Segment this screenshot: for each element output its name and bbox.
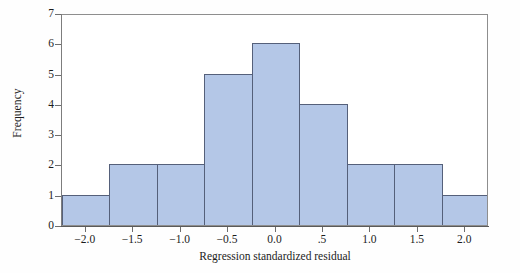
y-axis-tick-mark xyxy=(55,135,61,136)
x-axis-tick-mark xyxy=(369,227,370,232)
y-axis-tick-mark xyxy=(55,44,61,45)
y-axis-tick-label: 0 xyxy=(30,220,54,232)
y-axis-tick-label: 7 xyxy=(30,8,54,20)
y-axis-tick-label: 6 xyxy=(30,39,54,51)
x-axis-tick-mark xyxy=(132,227,133,232)
histogram-bar xyxy=(62,195,110,226)
x-axis-tick-mark xyxy=(275,227,276,232)
x-axis-tick-label: −2.0 xyxy=(74,234,95,246)
y-axis-title-text: Frequency xyxy=(11,88,23,137)
y-axis-tick-mark xyxy=(55,75,61,76)
histogram-bars xyxy=(62,15,487,225)
y-axis-title: Frequency xyxy=(6,0,28,226)
y-axis-tick-mark xyxy=(55,196,61,197)
histogram-bar xyxy=(252,43,300,226)
x-axis-tick-label: −0.5 xyxy=(217,234,238,246)
y-axis-tick-mark xyxy=(55,105,61,106)
y-axis-tick-labels: 01234567 xyxy=(30,0,54,240)
x-axis-tick-mark xyxy=(180,227,181,232)
y-axis-tick-mark xyxy=(55,14,61,15)
x-axis-tick-label: .5 xyxy=(318,234,327,246)
histogram-bar xyxy=(204,74,252,226)
x-axis-tick-mark xyxy=(227,227,228,232)
y-axis-tick-label: 2 xyxy=(30,160,54,172)
y-axis-tick-label: 5 xyxy=(30,69,54,81)
y-axis-tick-label: 3 xyxy=(30,129,54,141)
x-axis-tick-label: 1.0 xyxy=(362,234,376,246)
x-axis-tick-mark xyxy=(417,227,418,232)
x-axis-tick-label: −1.0 xyxy=(169,234,190,246)
y-axis-tick-label: 1 xyxy=(30,190,54,202)
y-axis-tick-mark xyxy=(55,165,61,166)
y-axis-tick-label: 4 xyxy=(30,99,54,111)
y-axis-tick-mark xyxy=(55,226,61,227)
x-axis-tick-mark xyxy=(464,227,465,232)
histogram-bar xyxy=(442,195,488,226)
x-axis-tick-label: 2.0 xyxy=(457,234,471,246)
histogram-bar xyxy=(157,164,205,226)
histogram-bar xyxy=(394,164,442,226)
y-axis-line xyxy=(61,14,62,227)
histogram-figure: Frequency 01234567 Regression standardiz… xyxy=(0,0,520,273)
x-axis-tick-label: 1.5 xyxy=(410,234,424,246)
plot-area xyxy=(61,14,488,226)
x-axis-tick-mark xyxy=(322,227,323,232)
histogram-bar xyxy=(347,164,395,226)
histogram-bar xyxy=(299,104,347,226)
x-axis-tick-label: 0.0 xyxy=(267,234,281,246)
histogram-bar xyxy=(109,164,157,226)
x-axis-tick-mark xyxy=(85,227,86,232)
x-axis-title: Regression standardized residual xyxy=(61,250,489,262)
x-axis-tick-label: −1.5 xyxy=(122,234,143,246)
